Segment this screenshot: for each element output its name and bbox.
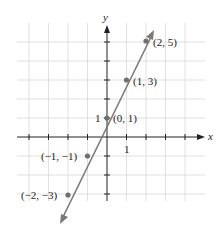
y-axis-label: y [102,11,108,23]
x-axis-arrow-icon [197,134,205,140]
point-0-1 [104,115,109,120]
point-1-3 [124,77,129,82]
point-label-2-5: (2, 5) [153,36,177,49]
y-tick-label: 1 [95,112,101,124]
line-arrow-bottom-icon [60,214,68,224]
x-tick-label: 1 [124,143,130,155]
coordinate-plane: y x 1 1 (2, 5) (1, 3) (0, 1) (−1, −1) (−… [0,0,217,228]
y-axis-arrow-icon [104,25,110,33]
point-label-neg2-neg3: (−2, −3) [21,189,58,202]
point-neg2-neg3 [65,192,70,197]
grid [17,23,205,201]
point-label-1-3: (1, 3) [133,75,157,88]
point-label-0-1: (0, 1) [113,112,137,125]
x-axis-label: x [207,130,213,142]
point-2-5 [143,38,148,43]
point-label-neg1-neg1: (−1, −1) [41,150,78,163]
point-neg1-neg1 [85,153,90,158]
